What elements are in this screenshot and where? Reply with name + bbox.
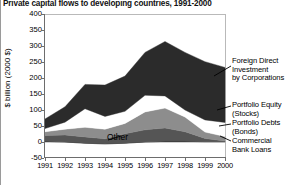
legend-label-foreign-direct-investment: Foreign Direct Investment by Corporation… [232,57,300,83]
y-tick-mark [41,46,44,47]
y-tick-label: 0 [14,138,42,146]
legend-label-portfolio-equity: Portfolio Equity (Stocks) [232,101,300,118]
y-tick-mark [41,14,44,15]
y-tick-mark [41,94,44,95]
x-tick-label: 1998 [177,162,193,170]
y-tick-label: 250 [14,58,42,66]
y-tick-mark [41,78,44,79]
x-tick-label: 1994 [97,162,113,170]
x-tick-label: 1996 [137,162,153,170]
x-tick-label: 1993 [77,162,93,170]
plot-area: 400350300250200150100500-50 199119921993… [44,14,226,158]
y-tick-mark [41,142,44,143]
annotation-other: Other [107,133,128,142]
stacked-area-series [44,14,226,158]
y-tick-mark [41,30,44,31]
figure-left-border [0,0,1,185]
x-tick-label: 1999 [197,162,213,170]
y-tick-label: 350 [14,26,42,34]
y-tick-mark [41,62,44,63]
y-tick-label: 400 [14,10,42,18]
y-tick-label: 50 [14,122,42,130]
y-tick-label: 300 [14,42,42,50]
x-tick-label: 1997 [157,162,173,170]
legend-label-commercial-bank-loans: Commercial Bank Loans [232,137,300,154]
x-tick-label: 2000 [217,162,233,170]
x-axis-line [44,157,226,158]
y-axis-line [44,14,45,158]
y-tick-label: 200 [14,74,42,82]
x-tick-label: 1995 [117,162,133,170]
y-tick-mark [41,110,44,111]
x-tick-label: 1992 [57,162,73,170]
chart-title: Private capital flows to developing coun… [3,0,297,9]
y-tick-label: 150 [14,90,42,98]
y-axis-label: $ billion (2000 $) [3,48,12,107]
x-tick-label: 1991 [37,162,53,170]
legend-label-portfolio-debts: Portfolio Debts (Bonds) [232,119,300,136]
chart-figure: Private capital flows to developing coun… [0,0,300,185]
y-tick-label: 100 [14,106,42,114]
y-tick-mark [41,158,44,159]
y-tick-mark [41,126,44,127]
